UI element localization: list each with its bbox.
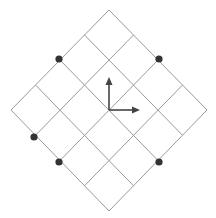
dot-marker	[55, 55, 62, 62]
dot-marker	[155, 55, 162, 62]
dot-marker	[155, 158, 162, 165]
dot-marker	[30, 133, 37, 140]
rotated-grid-diagram	[0, 0, 216, 218]
x-arrowhead-icon	[132, 107, 140, 114]
y-arrowhead-icon	[106, 77, 113, 85]
dot-markers	[30, 55, 162, 165]
dot-marker	[55, 158, 62, 165]
